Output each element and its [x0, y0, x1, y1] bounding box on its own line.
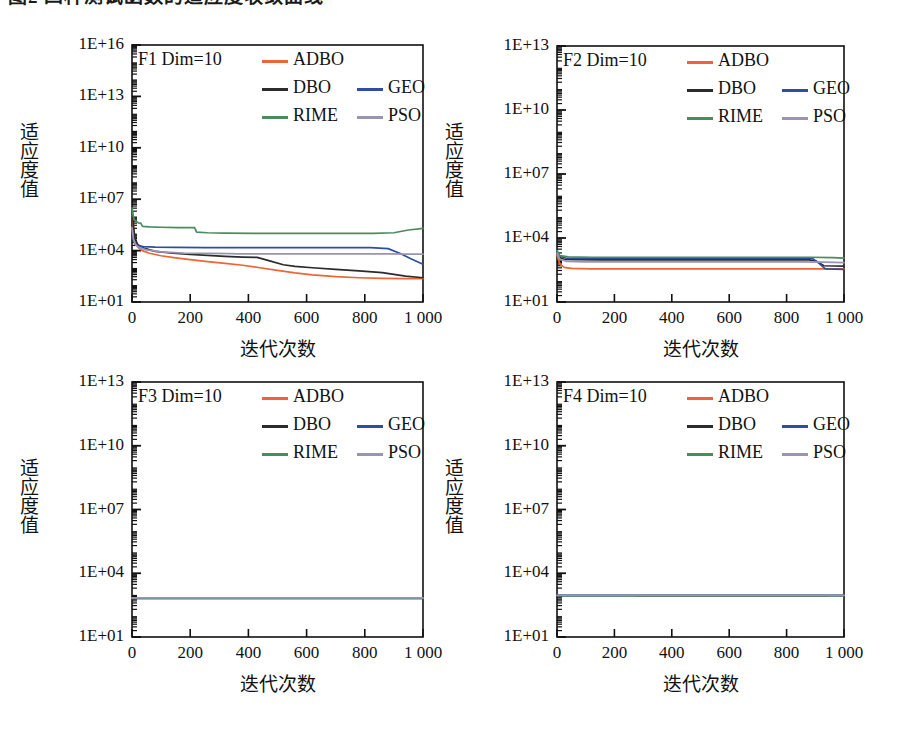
y-tick-label: 1E+10	[54, 435, 124, 455]
plot-frame	[132, 45, 423, 302]
figure-panel-grid: 1E+011E+041E+071E+101E+131E+160200400600…	[0, 0, 906, 734]
plot-area-f1	[0, 0, 906, 734]
y-tick-label: 1E+10	[479, 435, 549, 455]
y-tick-label: 1E+13	[54, 85, 124, 105]
legend-swatch-geo	[357, 88, 383, 91]
chart-panel-f1	[0, 0, 906, 734]
series-line-geo	[557, 251, 844, 269]
series-line-dbo	[132, 208, 423, 278]
series-line-rime	[132, 208, 423, 233]
plot-area-f3	[0, 0, 906, 734]
y-axis-label: 适应度值	[14, 458, 41, 534]
plot-frame	[132, 382, 423, 637]
legend-label-rime: RIME	[718, 442, 763, 463]
chart-panel-f2	[0, 0, 906, 734]
x-axis-label: 迭代次数	[218, 334, 338, 361]
legend-label-pso: PSO	[388, 442, 421, 463]
legend-label-adbo: ADBO	[293, 49, 344, 70]
legend-swatch-dbo	[262, 88, 288, 91]
legend-swatch-dbo	[687, 89, 713, 92]
plot-area-f4	[0, 0, 906, 734]
y-tick-label: 1E+07	[54, 499, 124, 519]
x-tick-label: 1 000	[387, 308, 459, 328]
x-tick-label: 1 000	[808, 308, 880, 328]
legend-label-dbo: DBO	[293, 414, 331, 435]
y-tick-label: 1E+16	[54, 34, 124, 54]
y-tick-label: 1E+07	[479, 163, 549, 183]
plot-area-f2	[0, 0, 906, 734]
y-tick-label: 1E+04	[479, 562, 549, 582]
x-axis-label: 迭代次数	[218, 669, 338, 696]
y-tick-label: 1E+13	[479, 371, 549, 391]
series-line-dbo	[557, 252, 844, 266]
legend-label-geo: GEO	[388, 77, 425, 98]
legend-swatch-geo	[782, 89, 808, 92]
plot-frame	[557, 46, 844, 302]
series-line-adbo	[557, 255, 844, 269]
legend-label-adbo: ADBO	[293, 386, 344, 407]
legend-label-rime: RIME	[293, 105, 338, 126]
panel-title-f4: F4 Dim=10	[563, 386, 647, 407]
legend-swatch-pso	[782, 117, 808, 120]
x-tick-label: 1 000	[387, 643, 459, 663]
legend-swatch-adbo	[687, 397, 713, 400]
legend-label-adbo: ADBO	[718, 386, 769, 407]
chart-panel-f4	[0, 0, 906, 734]
legend-label-pso: PSO	[388, 105, 421, 126]
legend-label-geo: GEO	[388, 414, 425, 435]
series-line-geo	[132, 228, 423, 264]
legend-swatch-rime	[262, 116, 288, 119]
chart-panel-f3	[0, 0, 906, 734]
legend-label-geo: GEO	[813, 414, 850, 435]
legend-label-dbo: DBO	[718, 414, 756, 435]
panel-title-f2: F2 Dim=10	[563, 50, 647, 71]
y-tick-label: 1E+13	[479, 35, 549, 55]
legend-label-rime: RIME	[718, 106, 763, 127]
panel-title-f3: F3 Dim=10	[138, 386, 222, 407]
legend-swatch-pso	[782, 453, 808, 456]
legend-label-adbo: ADBO	[718, 50, 769, 71]
legend-swatch-adbo	[687, 61, 713, 64]
panel-title-f1: F1 Dim=10	[138, 49, 222, 70]
y-axis-label: 适应度值	[439, 122, 466, 198]
x-tick-label: 1 000	[808, 643, 880, 663]
series-line-adbo	[132, 208, 423, 279]
legend-swatch-rime	[687, 453, 713, 456]
legend-label-dbo: DBO	[718, 78, 756, 99]
y-tick-label: 1E+04	[479, 227, 549, 247]
legend-label-geo: GEO	[813, 78, 850, 99]
legend-swatch-geo	[357, 425, 383, 428]
legend-label-pso: PSO	[813, 442, 846, 463]
y-tick-label: 1E+04	[54, 240, 124, 260]
y-tick-label: 1E+04	[54, 562, 124, 582]
y-tick-label: 1E+13	[54, 371, 124, 391]
plot-frame	[557, 382, 844, 637]
series-line-rime	[557, 250, 844, 258]
legend-swatch-dbo	[687, 425, 713, 428]
legend-label-rime: RIME	[293, 442, 338, 463]
y-tick-label: 1E+07	[54, 188, 124, 208]
legend-swatch-pso	[357, 453, 383, 456]
y-tick-label: 1E+10	[54, 137, 124, 157]
legend-swatch-adbo	[262, 60, 288, 63]
y-tick-label: 1E+07	[479, 499, 549, 519]
series-line-pso	[557, 253, 844, 263]
y-tick-label: 1E+10	[479, 99, 549, 119]
legend-swatch-pso	[357, 116, 383, 119]
x-axis-label: 迭代次数	[641, 334, 761, 361]
legend-swatch-adbo	[262, 397, 288, 400]
legend-swatch-geo	[782, 425, 808, 428]
x-axis-label: 迭代次数	[641, 669, 761, 696]
y-axis-label: 适应度值	[439, 458, 466, 534]
y-axis-label: 适应度值	[14, 122, 41, 198]
series-line-pso	[132, 228, 423, 255]
legend-swatch-rime	[687, 117, 713, 120]
legend-label-dbo: DBO	[293, 77, 331, 98]
legend-swatch-rime	[262, 453, 288, 456]
legend-swatch-dbo	[262, 425, 288, 428]
legend-label-pso: PSO	[813, 106, 846, 127]
